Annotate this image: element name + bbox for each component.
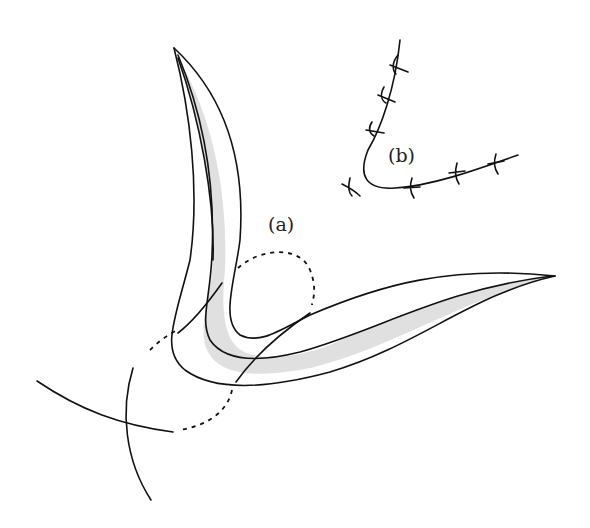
label-a: (a) xyxy=(268,213,294,235)
dashed-region-lower xyxy=(180,390,232,430)
dashed-region-a xyxy=(238,252,314,305)
shaded-band xyxy=(178,58,555,374)
label-b: (b) xyxy=(388,144,415,166)
crossing-arc-vertical xyxy=(126,368,151,500)
middle-outline xyxy=(178,55,552,358)
dashed-region-a-lower xyxy=(150,330,178,350)
crossing-arc-horizontal xyxy=(37,381,173,432)
hatch-marks xyxy=(342,55,504,198)
diagram-canvas: (a) (b) xyxy=(0,0,590,528)
